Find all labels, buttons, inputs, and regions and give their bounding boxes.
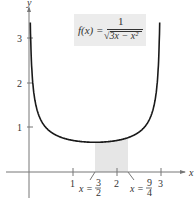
annotation-start: x = 3 2 bbox=[78, 177, 101, 198]
formula-lhs: f(x) = bbox=[78, 24, 103, 36]
y-axis-label: y bbox=[26, 0, 32, 8]
x-axis-label: x bbox=[188, 167, 194, 178]
y-tick-label-2: 2 bbox=[17, 78, 22, 89]
y-tick-label-1: 1 bbox=[17, 122, 22, 133]
function-label: f(x) = 1 √3x − x² bbox=[74, 14, 146, 46]
svg-text:x =: x = bbox=[78, 183, 93, 194]
annotation-leader-start bbox=[90, 172, 95, 180]
svg-text:x =: x = bbox=[129, 183, 144, 194]
x-tick-label-3: 3 bbox=[158, 178, 163, 189]
svg-text:4: 4 bbox=[147, 187, 152, 198]
x-axis-arrow-icon bbox=[180, 170, 186, 174]
radical-vinculum bbox=[110, 31, 142, 32]
annotation-end: x = 9 4 bbox=[129, 177, 152, 198]
svg-text:2: 2 bbox=[96, 187, 101, 198]
y-tick-label-3: 3 bbox=[17, 33, 22, 44]
annotation-leader-end bbox=[128, 172, 134, 180]
x-tick-label-1: 1 bbox=[70, 178, 75, 189]
x-tick-label-2: 2 bbox=[114, 178, 119, 189]
formula-numerator: 1 bbox=[118, 15, 124, 27]
